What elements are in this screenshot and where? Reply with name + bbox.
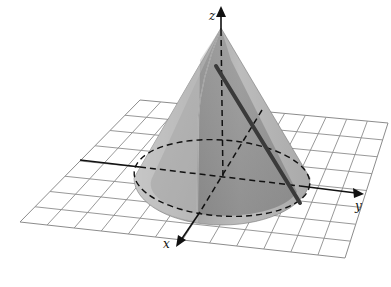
z-axis-arrow-icon [216,6,226,17]
cone-diagram: y x z [0,0,391,287]
diagram-canvas: y x z [0,0,391,287]
x-axis-label: x [163,237,170,251]
y-axis-label: y [354,199,362,213]
z-axis-label: z [208,9,216,23]
